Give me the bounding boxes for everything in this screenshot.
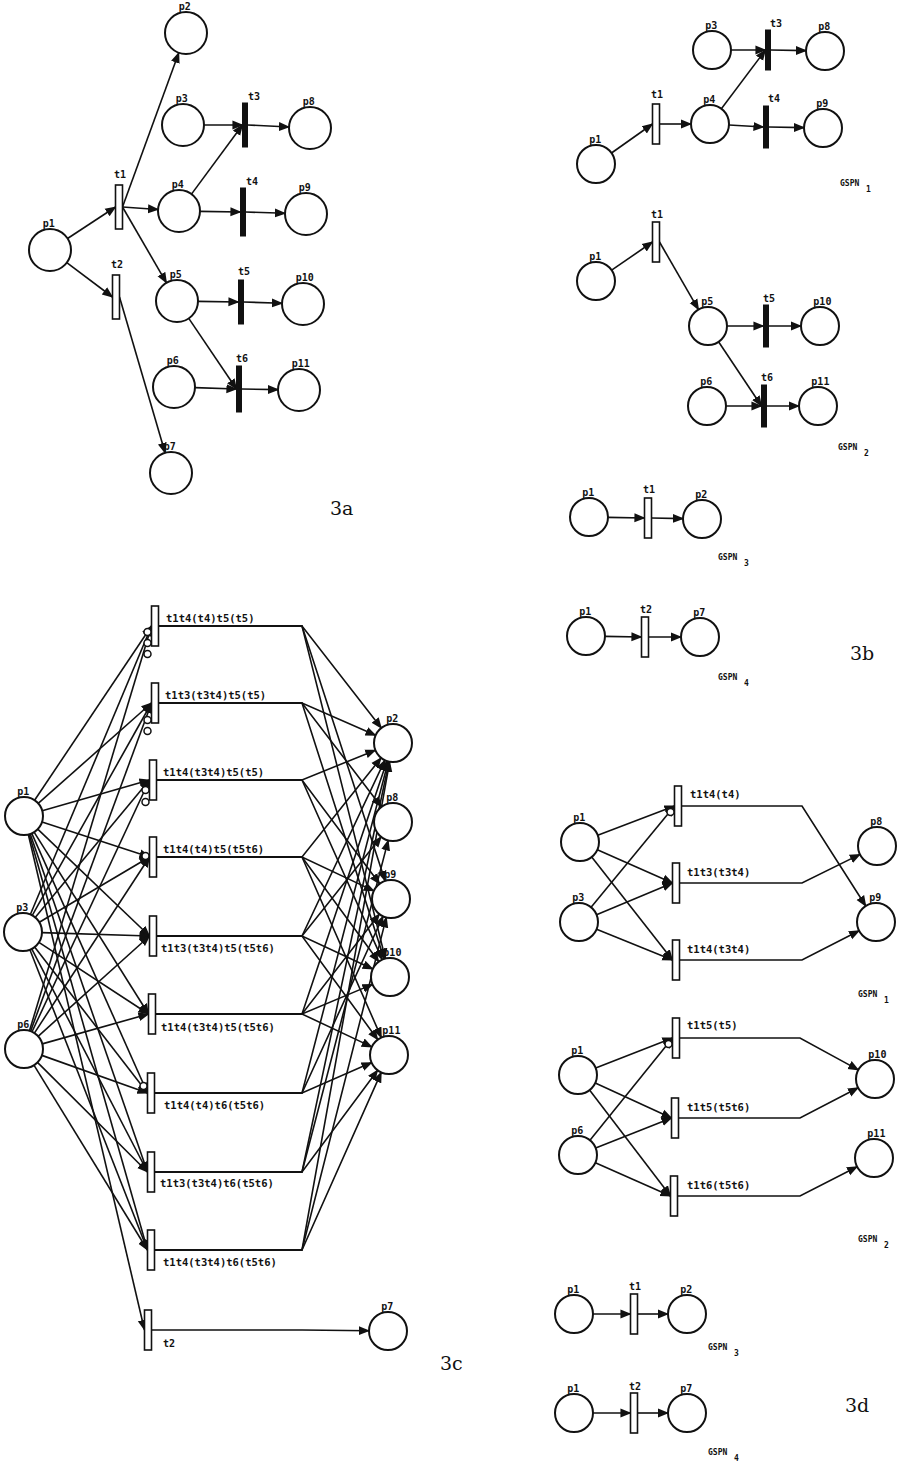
place-circle <box>165 12 207 54</box>
timed-transition-box <box>148 1152 155 1192</box>
place-label: p6 <box>571 1125 583 1136</box>
gspn-subscript: 2 <box>884 1241 889 1250</box>
transition-label: t1t3(t3t4)t6(t5t6) <box>160 1177 274 1189</box>
place-circle <box>683 500 721 538</box>
gspn-caption: GSPN4 <box>718 673 749 688</box>
transition-label: t1 <box>629 1281 641 1292</box>
gspn-name: GSPN <box>708 1343 727 1352</box>
arc-p1-t1 <box>612 124 653 153</box>
place-label: p9 <box>816 98 828 109</box>
place-label: p8 <box>386 792 398 803</box>
place-circle <box>856 1060 894 1098</box>
arc-p6-B <box>596 1118 672 1148</box>
timed-transition-box <box>152 683 159 723</box>
place-circle <box>282 283 324 325</box>
immediate-transition-bar <box>239 280 244 324</box>
place-circle <box>371 958 409 996</box>
inhibitor-arc-circle <box>144 728 151 735</box>
gspn-caption: GSPN1 <box>840 179 871 194</box>
place-p6: p6 <box>559 1125 597 1174</box>
place-circle <box>804 109 842 147</box>
place-label: p1 <box>43 218 55 229</box>
arc-p4-t4 <box>200 211 241 212</box>
place-label: p11 <box>811 376 829 387</box>
timed-transition-box <box>148 1230 155 1270</box>
place-p4: p4 <box>691 94 729 143</box>
arc-p6-C <box>595 1163 670 1196</box>
inhibitor-arc-circle <box>142 799 149 806</box>
transition-label: t1t3(t3t4)t5(t5t6) <box>161 942 275 954</box>
timed-transition-box <box>653 104 660 144</box>
place-circle <box>559 1056 597 1094</box>
place-circle <box>278 369 320 411</box>
place-p7: p7 <box>150 441 192 494</box>
subnet-gspn-4: p1p7t2GSPN4 <box>555 1381 739 1463</box>
place-label: p10 <box>868 1049 886 1060</box>
arc-t4-p9 <box>246 212 286 213</box>
arc-p5-t6 <box>189 318 237 389</box>
immediate-transition-bar <box>764 305 769 347</box>
gspn-name: GSPN <box>858 1235 877 1244</box>
subnet-gspn-1: p1p3p4p8p9t1t3t4GSPN1 <box>577 18 871 194</box>
panel-label-3d: 3d <box>845 1394 869 1416</box>
place-label: p8 <box>818 21 830 32</box>
place-label: p4 <box>703 94 715 105</box>
place-p1: p1 <box>577 134 615 183</box>
place-p1: p1 <box>567 606 605 655</box>
timed-transition-box <box>113 275 120 319</box>
place-circle <box>561 823 599 861</box>
place-circle <box>162 104 204 146</box>
place-p1: p1 <box>577 251 615 300</box>
arc-p3-T7 <box>35 947 148 1093</box>
place-p9: p9 <box>857 892 895 941</box>
arc-p5-t5 <box>198 301 239 302</box>
place-label: p3 <box>572 892 584 903</box>
place-p1: p1 <box>5 786 43 835</box>
gspn-name: GSPN <box>708 1448 727 1457</box>
place-p3: p3 <box>693 20 731 69</box>
transition-label: t5 <box>763 293 775 304</box>
place-circle <box>855 1139 893 1177</box>
arcs <box>28 626 389 1331</box>
place-label: p6 <box>17 1019 29 1030</box>
place-label: p1 <box>567 1284 579 1295</box>
place-circle <box>570 498 608 536</box>
place-circle <box>559 1136 597 1174</box>
transition-label: t1t3(t3t4)t5(t5) <box>165 689 266 701</box>
arcs <box>591 806 866 960</box>
arcs <box>590 1038 859 1196</box>
place-circle <box>555 1295 593 1333</box>
gspn-caption: GSPN2 <box>838 443 869 458</box>
place-p2: p2 <box>683 489 721 538</box>
place-p8: p8 <box>858 816 896 865</box>
transition-label: t1 <box>651 89 663 100</box>
place-label: p1 <box>567 1383 579 1394</box>
transition-label: t2 <box>640 604 652 615</box>
arc-T7-p11 <box>155 1063 372 1093</box>
gspn-subscript: 4 <box>744 679 749 688</box>
timed-transition-box <box>673 940 680 980</box>
immediate-transition-bar <box>237 366 242 412</box>
place-circle <box>374 724 412 762</box>
panel-label-3a: 3a <box>330 497 353 519</box>
place-p9: p9 <box>285 182 327 235</box>
place-label: p1 <box>17 786 29 797</box>
gspn-caption: GSPN1 <box>858 990 889 1005</box>
place-label: p11 <box>867 1128 885 1139</box>
gspn-caption: GSPN2 <box>858 1235 889 1250</box>
arc-T2-p2 <box>159 703 376 735</box>
timed-transition-box <box>631 1294 638 1334</box>
place-circle <box>857 903 895 941</box>
arc-T1-p10 <box>159 626 386 959</box>
arc-p4-t4 <box>729 125 764 127</box>
transition-label: t3 <box>770 18 782 29</box>
place-p9: p9 <box>804 98 842 147</box>
place-p10: p10 <box>282 272 324 325</box>
gspn-name: GSPN <box>838 443 857 452</box>
place-label: p7 <box>164 441 176 452</box>
transition-t6: t6 <box>236 353 248 412</box>
timed-transition-box <box>150 916 157 956</box>
arc-p1-T4 <box>42 822 149 857</box>
inhibitor-arc-circle <box>667 809 674 816</box>
immediate-transition-bar <box>243 103 248 147</box>
